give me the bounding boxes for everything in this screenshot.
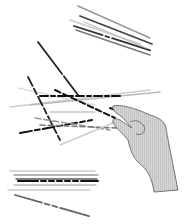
single-bottom-stick (15, 195, 92, 217)
bottom-stick-bundle (8, 171, 98, 190)
hand (113, 105, 178, 192)
top-right-stick-bundle (70, 6, 155, 55)
pick-up-sticks-illustration (0, 0, 186, 224)
